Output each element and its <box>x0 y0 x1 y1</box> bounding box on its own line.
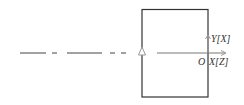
x-axis-label: X[Z] <box>208 56 229 67</box>
coordinate-diagram: Y[X] O X[Z] <box>0 0 244 105</box>
origin-label: O <box>198 56 205 67</box>
triangle-marker-icon <box>139 47 146 55</box>
y-axis-label: Y[X] <box>211 33 231 44</box>
